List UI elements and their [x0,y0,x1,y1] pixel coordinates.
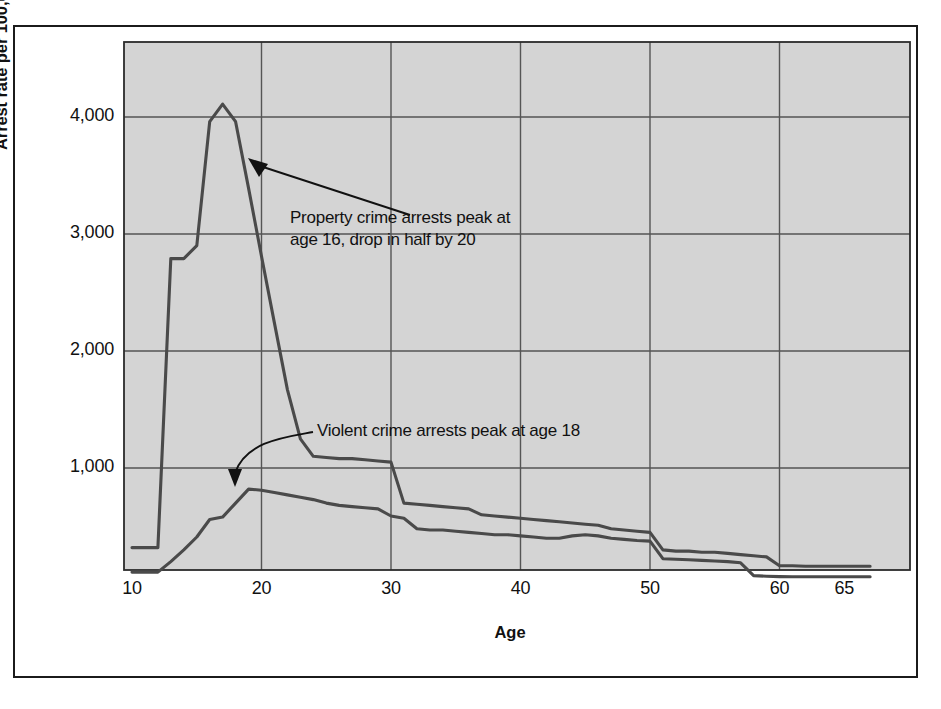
x-tick-label: 65 [814,578,874,599]
x-tick-label: 30 [361,578,421,599]
x-tick-label: 60 [750,578,810,599]
y-tick-label: 1,000 [28,456,114,477]
x-tick-label: 20 [232,578,292,599]
annotation-property-note: Property crime arrests peak at age 16, d… [290,207,510,251]
chart-figure: Arrest rate per 100,000 persons 1,0002,0… [0,0,941,709]
y-axis-title: Arrest rate per 100,000 persons [0,0,11,150]
y-tick-label: 2,000 [28,339,114,360]
x-tick-label: 10 [102,578,162,599]
y-tick-label: 4,000 [28,105,114,126]
annotation-violent-note: Violent crime arrests peak at age 18 [317,420,580,442]
x-tick-label: 50 [620,578,680,599]
x-axis-title: Age [410,623,610,642]
y-axis-title-wrapper: Arrest rate per 100,000 persons [0,0,32,150]
x-tick-label: 40 [491,578,551,599]
y-tick-label: 3,000 [28,222,114,243]
plot-area [124,42,910,570]
